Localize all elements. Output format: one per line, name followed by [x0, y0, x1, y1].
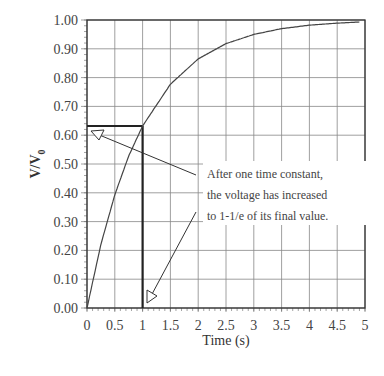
- x-tick-label: 0.5: [106, 318, 124, 333]
- y-tick-label: 1.00: [54, 13, 79, 28]
- y-tick-label: 0.60: [54, 128, 79, 143]
- x-tick-label: 2: [195, 318, 202, 333]
- y-tick-label: 0.50: [54, 157, 79, 172]
- annotation-line-1: After one time constant,: [207, 167, 323, 181]
- y-tick-label: 0.90: [54, 42, 79, 57]
- x-tick-label: 2.5: [217, 318, 235, 333]
- y-tick-label: 0.00: [54, 301, 79, 316]
- annotation-line-2: the voltage has increased: [207, 188, 327, 202]
- time-constant-chart: 0.000.100.200.300.400.500.600.700.800.90…: [0, 0, 384, 376]
- x-tick-label: 3.5: [273, 318, 291, 333]
- x-tick-label: 1: [139, 318, 146, 333]
- x-tick-label: 1.5: [162, 318, 180, 333]
- y-tick-label: 0.70: [54, 99, 79, 114]
- y-tick-label: 0.40: [54, 186, 79, 201]
- y-axis-title-subscript: 0: [36, 149, 47, 154]
- svg-text:V/V0: V/V0: [28, 149, 47, 178]
- x-tick-label: 4: [306, 318, 313, 333]
- x-axis-title: Time (s): [202, 333, 250, 349]
- y-tick-label: 0.10: [54, 272, 79, 287]
- annotation-line-3: to 1-1/e of its final value.: [207, 209, 328, 223]
- y-tick-label: 0.80: [54, 71, 79, 86]
- arrowhead-down-icon: [147, 290, 157, 303]
- y-tick-label: 0.30: [54, 215, 79, 230]
- y-tick-label: 0.20: [54, 243, 79, 258]
- arrow-to-x-value: [147, 212, 196, 303]
- x-axis-tick-labels: 00.511.522.533.544.55: [84, 318, 369, 333]
- y-axis-tick-labels: 0.000.100.200.300.400.500.600.700.800.90…: [54, 13, 79, 316]
- y-axis-title: V/V0: [28, 149, 47, 178]
- y-axis-title-main: V/V: [28, 154, 43, 178]
- x-tick-label: 3: [250, 318, 257, 333]
- x-tick-label: 5: [362, 318, 369, 333]
- x-tick-label: 0: [84, 318, 91, 333]
- x-tick-label: 4.5: [328, 318, 346, 333]
